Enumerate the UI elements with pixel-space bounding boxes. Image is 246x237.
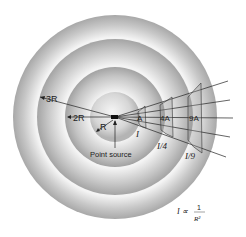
label-point-source: Point source — [90, 150, 132, 159]
formula-numerator: 1 — [197, 204, 201, 211]
label-3r: 3R — [46, 94, 58, 104]
label-intensity-i4: I/4 — [156, 141, 167, 151]
inverse-square-diagram: 3R 2R R Point source A 4A 9A I I/4 I/9 I… — [0, 0, 246, 237]
formula-denominator: R² — [193, 215, 201, 223]
label-intensity-i9: I/9 — [184, 151, 195, 161]
formula-lhs: I ∝ — [176, 207, 188, 216]
formula: I ∝ 1 R² — [176, 204, 205, 223]
label-2r: 2R — [73, 113, 85, 123]
label-area-4a: 4A — [160, 114, 170, 123]
label-area-9a: 9A — [189, 114, 199, 123]
label-r: R — [100, 122, 107, 132]
label-area-a: A — [137, 114, 143, 123]
point-source-dot — [111, 115, 118, 119]
